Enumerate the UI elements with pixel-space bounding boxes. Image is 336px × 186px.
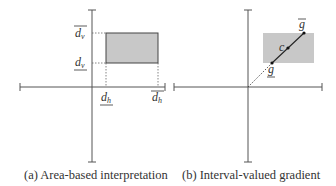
label-dh-upper: dh xyxy=(151,90,164,105)
caption-b: (b) Interval-valued gradient xyxy=(182,168,320,183)
panel-a: dv dv dh dh xyxy=(20,10,165,162)
point-g-upper xyxy=(302,31,305,34)
label-g-upper: g xyxy=(298,17,306,31)
interval-rectangle xyxy=(106,33,158,63)
panel-b: g c g xyxy=(174,10,322,162)
svg-text:c: c xyxy=(279,40,285,54)
svg-text:dh: dh xyxy=(101,90,111,105)
point-center xyxy=(286,46,289,49)
label-dh-lower: dh xyxy=(100,90,113,105)
svg-text:dv: dv xyxy=(75,55,85,70)
figure-canvas: dv dv dh dh xyxy=(0,0,336,186)
caption-a: (a) Area-based interpretation xyxy=(24,168,168,183)
svg-text:dv: dv xyxy=(75,26,85,41)
label-center: c xyxy=(279,40,285,54)
svg-text:g: g xyxy=(268,62,274,76)
svg-text:dh: dh xyxy=(152,90,162,105)
label-g-lower: g xyxy=(267,62,275,77)
label-dv-lower: dv xyxy=(74,55,87,70)
label-dv-upper: dv xyxy=(74,26,87,41)
